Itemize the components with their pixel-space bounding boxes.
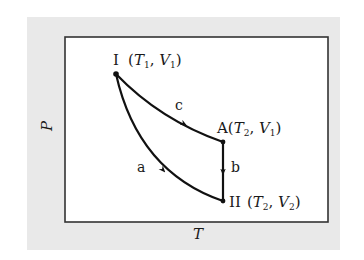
point-I-dot [113, 71, 119, 77]
diagram-stage: I (T1, V1) A(T2, V1) II (T2, V2) a c b P… [0, 0, 364, 260]
y-axis-label: P [38, 120, 56, 132]
path-a-label: a [137, 159, 145, 175]
pt-diagram: I (T1, V1) A(T2, V1) II (T2, V2) a c b P… [0, 0, 364, 260]
point-II-dot [221, 199, 226, 204]
point-A-dot [221, 140, 226, 145]
path-b-label: b [231, 159, 240, 175]
x-axis-label: T [193, 225, 204, 243]
path-c-label: c [175, 97, 183, 113]
